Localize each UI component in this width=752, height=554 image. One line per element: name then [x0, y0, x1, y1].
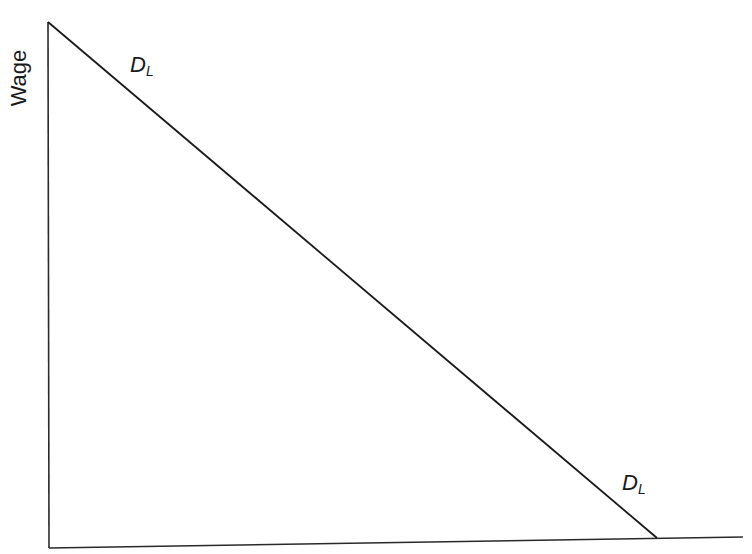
y-axis-label-text: Wage	[6, 50, 32, 107]
curve-label-bottom: DL	[622, 470, 646, 497]
curve-label-top: DL	[130, 52, 154, 79]
y-axis-label: Wage	[4, 48, 34, 108]
y-axis	[48, 22, 49, 548]
x-axis	[49, 537, 743, 548]
labor-demand-curve	[48, 22, 657, 538]
